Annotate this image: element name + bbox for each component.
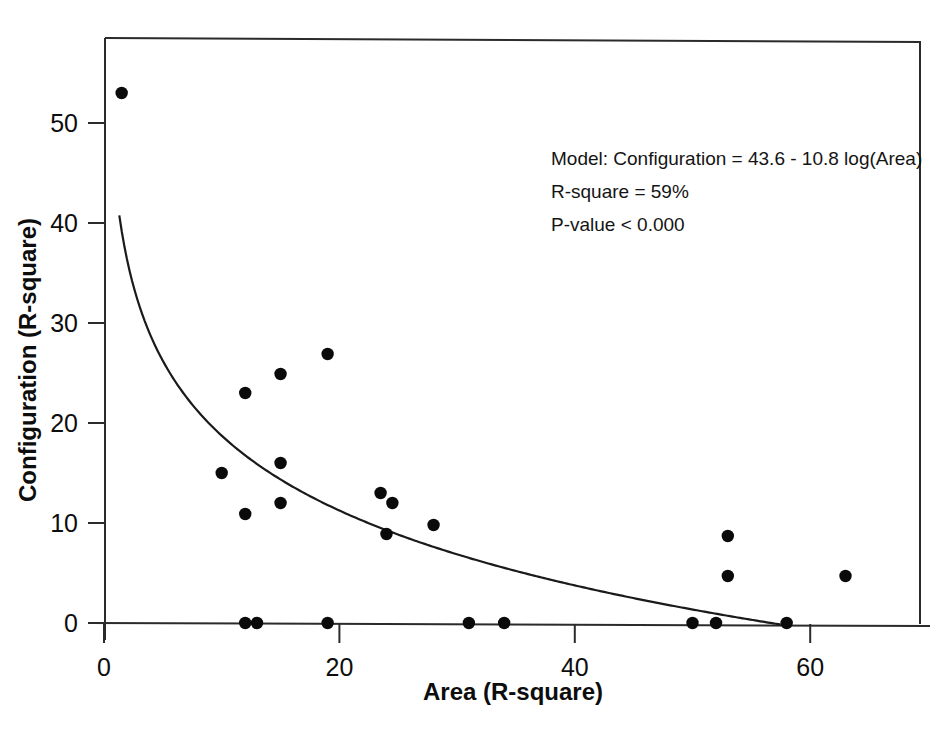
data-point: [321, 617, 333, 629]
annotation-r-square: R-square = 59%: [551, 181, 689, 202]
data-point: [251, 617, 263, 629]
data-point: [239, 508, 251, 520]
data-point: [239, 617, 251, 629]
plot-area: 01020304050 0204060 Area (R-square) Conf…: [0, 0, 947, 731]
x-tick-label: 0: [97, 653, 111, 681]
data-point: [463, 617, 475, 629]
data-point: [239, 387, 251, 399]
y-axis-ticks: [88, 123, 105, 623]
y-tick-label: 0: [64, 609, 78, 637]
y-axis-title: Configuration (R-square): [14, 218, 41, 502]
data-point: [427, 519, 439, 531]
plot-frame: [105, 38, 920, 624]
fitted-log-curve: [119, 215, 780, 624]
y-tick-label: 40: [50, 209, 78, 237]
x-axis-ticks: [104, 624, 810, 643]
data-point: [722, 570, 734, 582]
x-axis-title: Area (R-square): [423, 678, 603, 705]
x-tick-label: 40: [561, 653, 589, 681]
x-tick-label: 20: [325, 653, 353, 681]
y-tick-label: 30: [50, 309, 78, 337]
y-tick-label: 20: [50, 409, 78, 437]
y-axis-tick-labels: 01020304050: [50, 109, 78, 637]
data-point: [686, 617, 698, 629]
y-tick-label: 50: [50, 109, 78, 137]
data-point: [722, 530, 734, 542]
data-point: [498, 617, 510, 629]
data-point: [780, 617, 792, 629]
scatter-chart: 01020304050 0204060 Area (R-square) Conf…: [0, 0, 947, 731]
data-point: [274, 497, 286, 509]
x-tick-label: 60: [796, 653, 824, 681]
data-point: [710, 617, 722, 629]
y-tick-label: 10: [50, 509, 78, 537]
data-point: [115, 87, 127, 99]
data-point: [839, 570, 851, 582]
data-point: [321, 348, 333, 360]
data-point: [274, 457, 286, 469]
annotation-model: Model: Configuration = 43.6 - 10.8 log(A…: [551, 148, 922, 169]
annotation-p-value: P-value < 0.000: [551, 214, 685, 235]
data-point: [274, 368, 286, 380]
data-point: [374, 487, 386, 499]
x-axis-tick-labels: 0204060: [97, 653, 824, 681]
data-point: [386, 497, 398, 509]
data-point: [216, 467, 228, 479]
data-point: [380, 528, 392, 540]
